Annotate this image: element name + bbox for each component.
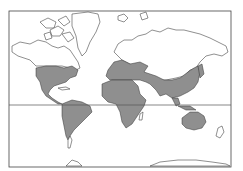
svalbard (118, 14, 128, 22)
north-america-north (12, 16, 80, 70)
antarctica-east (150, 160, 230, 166)
range-south-america (62, 100, 92, 140)
antarctica (66, 160, 82, 166)
caribbean-cuba (58, 87, 70, 90)
novaya-zemlya (140, 12, 148, 20)
range-indonesia (178, 106, 196, 110)
range-australia (182, 112, 206, 130)
new-zealand (216, 126, 224, 138)
madagascar (139, 112, 143, 120)
range-africa (102, 80, 146, 128)
range-north-america (36, 66, 78, 104)
greenland (72, 12, 100, 56)
world-map (0, 0, 243, 171)
